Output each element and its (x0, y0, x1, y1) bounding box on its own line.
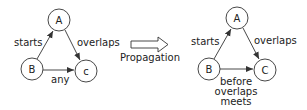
node-a-right-label: A (234, 13, 241, 24)
edge-label-overlaps-left: overlaps (77, 37, 120, 48)
node-c-left-label: c (83, 66, 89, 77)
hollow-right-arrow-icon (131, 37, 168, 52)
propagation-transform: Propagation (120, 37, 180, 63)
right-graph: A B C starts overlaps before overlaps me… (191, 7, 297, 107)
node-c-right-label: C (262, 65, 269, 76)
edge-label-overlaps-right: overlaps (254, 35, 297, 46)
edge-label-meets-right: meets (220, 96, 251, 107)
node-a-left-label: A (56, 15, 63, 26)
edge-label-any-left: any (51, 74, 69, 85)
edge-label-starts-left: starts (14, 37, 43, 48)
edge-label-starts-right: starts (191, 36, 220, 47)
node-b-right-label: B (206, 64, 213, 75)
propagation-label: Propagation (120, 52, 180, 63)
propagation-diagram: A B c starts overlaps any Propagation A … (0, 0, 307, 110)
node-b-left-label: B (29, 64, 36, 75)
left-graph: A B c starts overlaps any (14, 9, 120, 85)
